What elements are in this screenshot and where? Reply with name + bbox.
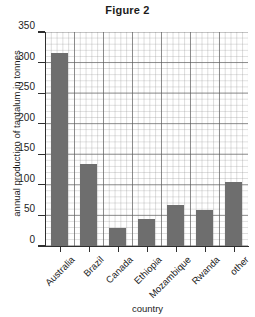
- x-axis-tick: [147, 246, 148, 252]
- y-axis-tick-label: 50: [0, 203, 35, 214]
- bar-canada: [109, 228, 127, 246]
- y-axis-tick: [38, 215, 45, 216]
- y-axis-tick-label: 350: [0, 20, 35, 31]
- x-axis-tick: [60, 246, 61, 252]
- y-axis-tick: [38, 93, 45, 94]
- bar-mozambique: [167, 205, 185, 246]
- bar-other: [225, 182, 243, 246]
- x-axis-label-brazil: Brazil: [81, 254, 106, 279]
- y-axis-tick: [38, 31, 45, 32]
- y-axis-tick: [38, 245, 45, 246]
- x-axis-tick: [205, 246, 206, 252]
- x-axis-tick: [176, 246, 177, 252]
- x-axis-title: country: [40, 303, 255, 314]
- bars-group: [45, 32, 248, 246]
- bar-brazil: [80, 164, 98, 246]
- x-axis-label-other: other: [227, 254, 250, 277]
- chart-title: Figure 2: [0, 4, 255, 16]
- figure-2-bar-chart: Figure 2 annual production of tantalum i…: [0, 0, 255, 317]
- y-axis-tick: [38, 154, 45, 155]
- x-axis-label-canada: Canada: [103, 254, 134, 285]
- y-axis-tick-label: 300: [0, 51, 35, 62]
- bar-rwanda: [196, 210, 214, 246]
- y-axis-tick: [38, 62, 45, 63]
- y-axis-tick-label: 150: [0, 142, 35, 153]
- y-axis-tick: [38, 184, 45, 185]
- y-axis-tick-label: 200: [0, 112, 35, 123]
- x-axis-tick: [234, 246, 235, 252]
- y-axis-tick-label: 0: [0, 234, 35, 245]
- x-axis-label-australia: Australia: [42, 254, 76, 288]
- bar-australia: [51, 53, 69, 246]
- x-axis-tick: [89, 246, 90, 252]
- y-axis-tick-label: 100: [0, 173, 35, 184]
- y-axis-tick: [38, 123, 45, 124]
- x-axis-label-rwanda: Rwanda: [189, 254, 221, 286]
- y-axis-tick-label: 250: [0, 81, 35, 92]
- x-axis-tick: [118, 246, 119, 252]
- bar-ethiopia: [138, 219, 156, 246]
